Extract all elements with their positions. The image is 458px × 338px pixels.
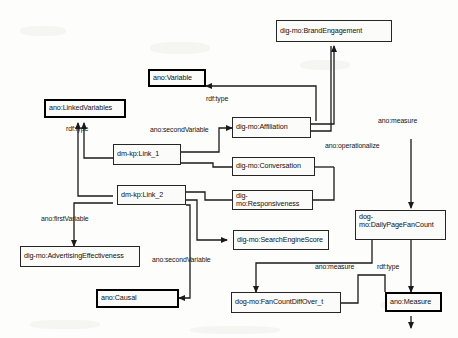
node-label: dog-mo:FanCountDiffOver_t — [235, 298, 337, 306]
edge-rdftype-linked-1 — [84, 123, 113, 158]
edge-label-measure-bottom: ano:measure — [315, 263, 354, 270]
node-brand-engagement[interactable]: dig-mo:BrandEngagement — [276, 20, 392, 42]
node-label: ano:Measure — [390, 298, 437, 306]
edge-label-second-variable-bottom: ano:secondVariable — [152, 256, 211, 263]
edge-affiliation-measure-brandengagement — [311, 46, 334, 124]
scan-smudge — [20, 26, 66, 36]
node-conversation[interactable]: dig-mo:Conversation — [232, 157, 315, 176]
node-affiliation[interactable]: dig-mo:Affiliation — [232, 117, 311, 138]
edge-rdftype-variable — [206, 86, 316, 121]
node-advertising-effectiveness[interactable]: dig-mo:AdvertisingEffectiveness — [20, 246, 140, 267]
node-link-2[interactable]: dm-kp:Link_2 — [117, 185, 186, 205]
node-label: dog- mo:DailyPageFanCount — [359, 213, 442, 230]
node-ano-causal[interactable]: ano:Causal — [96, 289, 179, 308]
node-label: dig-mo:Conversation — [236, 162, 311, 170]
node-fan-count-diff[interactable]: dog-mo:FanCountDiffOver_t — [231, 292, 341, 313]
node-daily-page-fan-count[interactable]: dog- mo:DailyPageFanCount — [355, 210, 446, 240]
node-link-1[interactable]: dm-kp:Link_1 — [113, 144, 181, 165]
edge-label-rdftype-variable: rdf:type — [206, 95, 228, 102]
scan-smudge — [150, 42, 210, 54]
node-ano-measure-class[interactable]: ano:Measure — [385, 292, 442, 312]
node-label: dig-mo:BrandEngagement — [280, 27, 388, 35]
node-label: ano:Causal — [101, 294, 174, 302]
edge-rdftype-linked-2 — [78, 123, 113, 196]
node-search-engine-score[interactable]: dig-mo:SearchEngineScore — [233, 230, 329, 250]
node-label: dm-kp:Link_2 — [121, 191, 182, 199]
edge-label-first-variable: ano:firstVariable — [41, 215, 89, 222]
edge-link2-searchenginescore — [186, 200, 227, 240]
node-label: dig-mo:Affiliation — [236, 123, 307, 131]
edge-affiliation-measure-brandengagement-2 — [311, 46, 331, 131]
node-label: dig-mo:AdvertisingEffectiveness — [24, 252, 136, 260]
edge-secondvariable-causal — [179, 205, 190, 298]
edge-link1-conversation — [181, 163, 232, 167]
node-label: dm-kp:Link_1 — [117, 150, 177, 158]
node-ano-linked-variables[interactable]: ano:LinkedVariables — [44, 99, 126, 118]
diagram-canvas: dig-mo:BrandEngagement ano:Variable ano:… — [0, 0, 458, 338]
scan-smudge — [190, 326, 280, 334]
edge-responsiveness-operationalize — [313, 167, 334, 200]
node-label: ano:Variable — [153, 74, 201, 82]
edge-label-measure-top: ano:measure — [378, 117, 417, 124]
node-ano-variable[interactable]: ano:Variable — [148, 69, 206, 87]
node-responsiveness[interactable]: dig-mo:Responsiveness — [232, 190, 313, 210]
edge-firstvariable-advertising — [74, 203, 113, 246]
node-label: dig-mo:SearchEngineScore — [237, 236, 325, 244]
edge-label-rdftype-measure: rdf:type — [377, 263, 399, 270]
diagram-connectors — [0, 0, 458, 338]
edge-fancountdiff-measure — [341, 275, 385, 303]
scan-smudge — [30, 320, 100, 329]
node-label: dig-mo:Responsiveness — [236, 192, 309, 209]
edge-label-operationalize: ano:operationalize — [325, 142, 380, 149]
scan-smudge — [300, 60, 350, 70]
edge-link2-responsiveness — [186, 192, 232, 200]
edge-label-rdftype-linked: rdf:type — [66, 125, 88, 132]
node-label: ano:LinkedVariables — [49, 104, 121, 112]
edge-label-second-variable-top: ano:secondVariable — [150, 126, 209, 133]
